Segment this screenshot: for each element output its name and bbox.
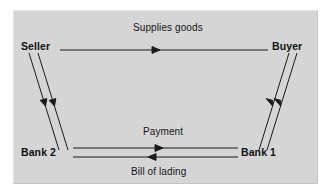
- node-label-seller: Seller: [21, 40, 50, 52]
- edge-label-supplies-goods: Supplies goods: [133, 22, 203, 33]
- edge-label-bill-of-lading: Bill of lading: [131, 166, 186, 177]
- edge-buyer-bank1-arrowhead-a: [266, 99, 273, 106]
- edge-buyer-bank1-line-a: [259, 53, 289, 150]
- node-label-bank2: Bank 2: [21, 146, 56, 158]
- edge-seller-bank2-arrowhead-a: [40, 99, 47, 106]
- edge-bill-of-lading-arrowhead: [148, 154, 156, 161]
- edge-payment-arrowhead: [155, 145, 163, 152]
- trade-flow-diagram: Seller Buyer Bank 2 Bank 1 Supplies good…: [0, 0, 329, 195]
- node-label-bank1: Bank 1: [241, 146, 276, 158]
- edge-supplies-goods-arrowhead: [152, 47, 160, 54]
- edge-buyer-bank1-arrowhead-b: [274, 99, 281, 106]
- edge-seller-bank2-arrowhead-b: [49, 99, 56, 106]
- edge-label-payment: Payment: [143, 126, 183, 137]
- node-label-buyer: Buyer: [272, 40, 302, 52]
